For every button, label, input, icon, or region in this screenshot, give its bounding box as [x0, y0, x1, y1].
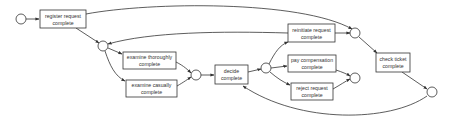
arc-pay-p5 — [336, 70, 350, 76]
arc-check-ticket-end — [402, 72, 427, 89]
transition-label: register request — [45, 13, 82, 19]
transition-label: complete — [301, 64, 322, 70]
place-p4[interactable] — [350, 28, 360, 38]
transition-label: examine thoroughly — [127, 54, 173, 60]
arc-p3-reinitiate — [269, 42, 288, 64]
place-p3[interactable] — [261, 63, 271, 73]
transition-reject[interactable]: reject request complete — [291, 83, 333, 100]
arc-casually-p2 — [177, 77, 191, 86]
arc-reinitiate-p1 — [108, 32, 288, 44]
transition-label: complete — [382, 63, 403, 69]
arc-register-p1 — [76, 28, 99, 43]
arc-p4-check-ticket — [359, 37, 377, 53]
transition-label: complete — [139, 61, 160, 67]
transition-label: decide — [224, 68, 239, 74]
arc-end-decide — [243, 86, 427, 115]
transition-label: complete — [52, 20, 73, 26]
petri-net-diagram: register request complete examine thorou… — [0, 0, 452, 126]
transition-label: complete — [141, 89, 162, 95]
transition-label: complete — [221, 75, 242, 81]
transition-label: reinitiate request — [292, 27, 331, 33]
transition-label: examine casually — [132, 82, 172, 88]
arc-thoroughly-p2 — [176, 62, 191, 73]
transition-label: check ticket — [379, 56, 407, 62]
arc-p3-pay — [271, 66, 287, 68]
arc-decide-p3 — [248, 69, 261, 72]
transition-examine-casually[interactable]: examine casually complete — [126, 80, 177, 97]
transition-decide[interactable]: decide complete — [215, 65, 248, 84]
arc-p3-reject — [270, 72, 290, 85]
transition-examine-thoroughly[interactable]: examine thoroughly complete — [123, 52, 176, 69]
transition-register[interactable]: register request complete — [40, 10, 86, 28]
place-start[interactable] — [16, 14, 26, 24]
arc-p1-examine-thoroughly — [108, 48, 122, 54]
transition-check-ticket[interactable]: check ticket complete — [376, 53, 410, 72]
transitions: register request complete examine thorou… — [40, 10, 410, 100]
arc-reject-p5 — [333, 79, 350, 89]
place-p1[interactable] — [98, 41, 108, 51]
place-end[interactable] — [427, 87, 437, 97]
transition-label: complete — [301, 92, 322, 98]
transition-label: complete — [301, 34, 322, 40]
place-p2[interactable] — [191, 70, 201, 80]
arc-p1-examine-casually — [105, 51, 125, 81]
transition-label: reject request — [296, 85, 328, 91]
transition-reinitiate[interactable]: reinitiate request complete — [288, 24, 335, 42]
place-p5[interactable] — [350, 73, 360, 83]
transition-pay-compensation[interactable]: pay compensation complete — [288, 55, 336, 72]
transition-label: pay compensation — [291, 57, 333, 63]
